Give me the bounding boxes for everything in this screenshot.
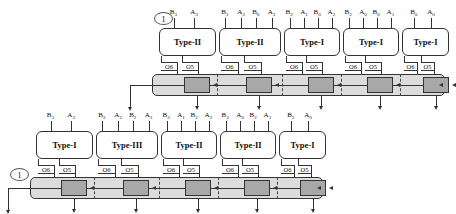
output-tap-o5: O5 (242, 165, 258, 174)
bus-segment-divider (218, 177, 220, 199)
output-tap-stem (294, 165, 295, 177)
input-pin-stem (304, 18, 305, 28)
input-pin-stem (118, 121, 119, 131)
input-pin-stem (414, 18, 415, 28)
pe-cell-label: Type-II (174, 37, 201, 47)
input-pin-stem (209, 121, 210, 131)
cell-output-stem (221, 56, 222, 62)
cell-output-stem (244, 56, 245, 62)
bus-output-stem (198, 199, 199, 209)
bus-segment-divider (400, 74, 402, 96)
bus-register (61, 180, 87, 196)
pe-cell-label: Type-I (53, 140, 77, 150)
input-pin-label: B3 (98, 111, 105, 119)
output-tap-stem (199, 165, 200, 177)
output-tap-o6: O6 (345, 62, 361, 71)
output-tap-stem (361, 62, 362, 74)
bus-input-arrow (6, 210, 10, 214)
row-index-marker: 1 (10, 168, 29, 181)
cell-output-stem (98, 159, 99, 165)
output-tap-o6: O6 (404, 62, 417, 71)
input-pin-stem (181, 121, 182, 131)
pe-cell[interactable]: Type-III (96, 131, 158, 159)
cell-output-stem (222, 159, 223, 165)
input-pin-label: A2 (205, 111, 213, 119)
pe-cell[interactable]: Type-I (402, 28, 449, 56)
bus-register (308, 77, 334, 93)
output-tap-o6: O6 (38, 165, 54, 174)
pe-cell-label: Type-I (300, 37, 324, 47)
bus-output-stem (257, 199, 258, 209)
bus-output-arrow (134, 209, 138, 213)
input-pin-stem (51, 121, 52, 131)
input-pin-label: A0 (427, 8, 435, 16)
bus-flow-arrow (452, 83, 456, 87)
input-pin-label: A3 (67, 111, 75, 119)
output-tap-stem (75, 165, 76, 177)
input-pin-label: B0 (373, 8, 380, 16)
bus-output-arrow (319, 106, 323, 110)
input-pin-stem (133, 121, 134, 131)
pe-cell[interactable]: Type-I (279, 131, 326, 159)
bus-output-arrow (196, 209, 200, 213)
output-tap-o6: O6 (163, 165, 179, 174)
input-pin-label: A2 (114, 111, 122, 119)
bus-output-stem (313, 199, 314, 209)
input-pin-label: B3 (163, 111, 170, 119)
pe-cell[interactable]: Type-II (161, 131, 217, 159)
output-tap-o6: O6 (98, 165, 115, 174)
bus-output-stem (74, 199, 75, 209)
input-pin-label: B0 (410, 8, 417, 16)
bus-output-stem (136, 199, 137, 209)
cell-output-stem (365, 56, 366, 62)
input-pin-label: A1 (264, 111, 272, 119)
cell-output-stem (281, 159, 282, 165)
input-pin-label: A3 (268, 8, 276, 16)
cell-output-stem (298, 159, 299, 165)
pe-cell[interactable]: Type-I (36, 131, 93, 159)
input-pin-stem (174, 18, 175, 28)
pe-cell-label: Type-I (291, 140, 315, 150)
input-pin-stem (268, 121, 269, 131)
bus-input-tail-horizontal (130, 85, 152, 86)
bus-output-arrow (311, 209, 315, 213)
bus-register (184, 77, 210, 93)
pe-cell[interactable]: Type-II (159, 28, 216, 56)
pe-cell-label: Type-II (175, 140, 202, 150)
bus-output-stem (259, 96, 260, 106)
cell-output-stem (183, 159, 184, 165)
bus-output-arrow (72, 209, 76, 213)
output-tap-stem (302, 62, 303, 74)
input-pin-stem (195, 121, 196, 131)
pe-cell[interactable]: Type-I (284, 28, 340, 56)
input-pin-stem (431, 18, 432, 28)
cell-output-stem (161, 56, 162, 62)
bus-register (123, 180, 149, 196)
output-tap-o5: O5 (306, 62, 322, 71)
bus-output-arrow (378, 106, 382, 110)
output-tap-o5: O5 (59, 165, 75, 174)
output-tap-o5: O5 (182, 62, 198, 71)
input-pin-label: B0 (314, 8, 321, 16)
input-pin-stem (308, 121, 309, 131)
input-pin-label: A0 (359, 8, 367, 16)
pe-cell[interactable]: Type-II (220, 131, 276, 159)
input-pin-stem (377, 18, 378, 28)
bus-flow-arrow (152, 186, 156, 190)
input-pin-stem (241, 18, 242, 28)
pe-cell[interactable]: Type-I (343, 28, 399, 56)
bus-register (300, 180, 326, 196)
bus-register (367, 77, 393, 93)
input-pin-stem (391, 18, 392, 28)
output-tap-stem (179, 165, 180, 177)
output-tap-o6: O6 (286, 62, 302, 71)
cell-output-stem (404, 56, 405, 62)
input-pin-label: A1 (300, 8, 308, 16)
output-tap-o6: O6 (221, 62, 238, 71)
pe-cell[interactable]: Type-II (219, 28, 281, 56)
bus-flow-arrow (329, 186, 333, 190)
cell-output-stem (306, 56, 307, 62)
bus-flow-arrow (275, 83, 279, 87)
output-tap-o5: O5 (421, 62, 434, 71)
input-pin-stem (318, 18, 319, 28)
